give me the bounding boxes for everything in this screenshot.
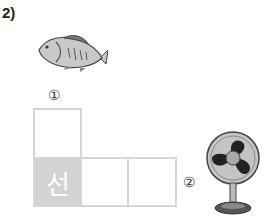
grid-cell-top[interactable]: [33, 108, 82, 159]
grid-cell-filled: 선: [33, 157, 82, 207]
grid-cell-middle[interactable]: [80, 157, 129, 207]
marker-one: ①: [48, 87, 61, 103]
fan-icon: [200, 128, 266, 216]
fish-icon: [36, 30, 108, 75]
problem-number: 2): [2, 4, 15, 21]
grid-cell-right[interactable]: [127, 157, 177, 207]
marker-two: ②: [183, 174, 196, 190]
